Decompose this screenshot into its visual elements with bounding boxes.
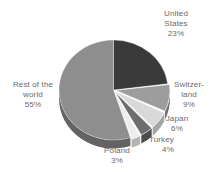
- slice-value-rest-of-world: 55%: [4, 100, 62, 110]
- slice-label-japan: Japan 6%: [160, 114, 194, 134]
- slice-label-line: Japan: [160, 114, 194, 124]
- slice-value-united-states: 23%: [150, 29, 202, 39]
- pie-slices: [59, 40, 170, 140]
- slice-label-line: land: [167, 90, 211, 100]
- slice-label-line: United: [150, 9, 202, 19]
- slice-label-line: Turkey: [120, 135, 174, 145]
- slice-label-poland: Poland 3%: [96, 146, 138, 166]
- pie-chart: United States 23% Switzer- land 9% Japan…: [0, 0, 213, 175]
- slice-label-line: States: [150, 19, 202, 29]
- slice-label-rest-of-world: Rest of the world 55%: [4, 80, 62, 111]
- pie-slice-united-states: [114, 40, 168, 90]
- slice-label-line: Switzer-: [167, 80, 211, 90]
- slice-value-switzerland: 9%: [167, 100, 211, 110]
- slice-label-united-states: United States 23%: [150, 9, 202, 40]
- slice-label-switzerland: Switzer- land 9%: [167, 80, 211, 111]
- slice-label-line: world: [4, 90, 62, 100]
- slice-label-line: Rest of the: [4, 80, 62, 90]
- slice-value-poland: 3%: [96, 156, 138, 166]
- slice-value-japan: 6%: [160, 124, 194, 134]
- slice-label-line: Poland: [96, 146, 138, 156]
